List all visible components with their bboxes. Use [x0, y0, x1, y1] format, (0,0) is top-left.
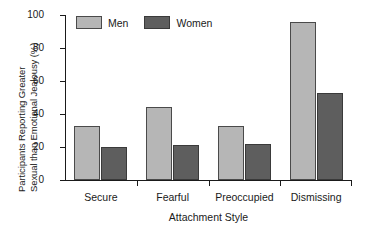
y-axis-tick-label: 0 — [18, 175, 44, 185]
bar-secure-women — [101, 147, 127, 180]
bar-chart-figure: Participants Reporting Greater Sexual th… — [0, 0, 366, 238]
x-axis-label-fearful: Fearful — [137, 191, 209, 203]
bar-fearful-men — [146, 107, 172, 180]
y-axis-line — [65, 15, 66, 180]
y-axis-tick — [60, 147, 65, 148]
x-axis-separator-tick — [280, 181, 281, 186]
y-axis-tick-label: 60 — [18, 76, 44, 86]
y-axis-tick — [60, 48, 65, 49]
bar-fearful-women — [173, 145, 199, 180]
y-axis-tick-label: 80 — [18, 43, 44, 53]
bar-secure-men — [74, 126, 100, 180]
y-axis-tick-label: 100 — [18, 10, 44, 20]
bar-preoccupied-men — [218, 126, 244, 180]
y-axis-tick-label: 20 — [18, 142, 44, 152]
x-axis-separator-tick — [137, 181, 138, 186]
y-axis-tick-label: 40 — [18, 109, 44, 119]
bar-preoccupied-women — [245, 144, 271, 180]
y-axis-tick — [60, 114, 65, 115]
x-axis-label-dismissing: Dismissing — [280, 191, 352, 203]
y-axis-tick — [60, 15, 65, 16]
x-axis-title: Attachment Style — [65, 211, 352, 223]
x-axis-separator-tick — [209, 181, 210, 186]
x-axis-end-tick — [351, 181, 352, 186]
y-axis-title: Participants Reporting Greater Sexual th… — [0, 0, 40, 196]
plot-area: 020406080100 SecureFearfulPreoccupiedDis… — [65, 15, 352, 180]
bar-dismissing-women — [317, 93, 343, 180]
x-axis-label-preoccupied: Preoccupied — [209, 191, 281, 203]
bar-dismissing-men — [290, 22, 316, 180]
y-axis-tick — [60, 81, 65, 82]
x-axis-label-secure: Secure — [65, 191, 137, 203]
y-axis-tick — [60, 180, 65, 181]
